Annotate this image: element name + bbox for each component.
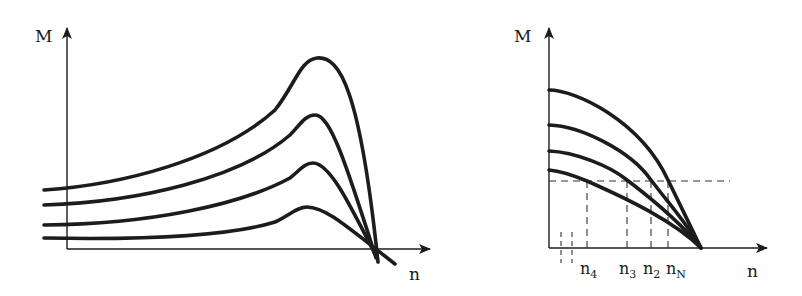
right-diagram: M n n4 n3 n2 nN — [514, 26, 767, 281]
left-curve-2 — [44, 115, 376, 258]
left-x-axis-label: n — [409, 264, 420, 284]
left-y-axis-label: M — [35, 26, 52, 46]
diagram-canvas: M n M n n4 n3 n2 nN — [0, 0, 802, 296]
right-x-axis-label: n — [747, 261, 758, 281]
tick-label-n2: n2 — [643, 259, 660, 281]
tick-label-n4: n4 — [580, 259, 597, 281]
right-y-axis-label: M — [514, 26, 531, 46]
left-curve-1 — [44, 58, 378, 262]
tick-label-n3: n3 — [619, 259, 636, 281]
left-diagram: M n — [35, 26, 430, 284]
tick-label-nN: nN — [666, 259, 686, 281]
left-curve-4 — [44, 207, 395, 264]
